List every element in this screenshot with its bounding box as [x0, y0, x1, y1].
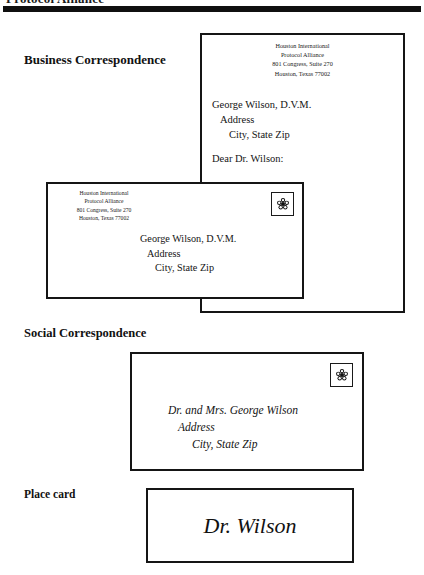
letter-address-line-1: George Wilson, D.V.M. [212, 97, 311, 112]
return-address-line-1: Houston International [52, 189, 156, 197]
envelope-address-line-3: City, State Zip [140, 261, 236, 276]
social-address-line-2: Address [168, 419, 298, 436]
envelope-address-line-1: George Wilson, D.V.M. [140, 232, 236, 247]
social-envelope: Dr. and Mrs. George Wilson Address City,… [130, 352, 364, 471]
flower-stamp-icon [330, 363, 353, 387]
letter-address-line-2: Address [212, 112, 311, 127]
business-envelope-delivery-address: George Wilson, D.V.M. Address City, Stat… [140, 232, 236, 276]
letterhead-line-4: Houston, Texas 77002 [202, 69, 403, 78]
return-address-line-3: 801 Congress, Suite 270 [52, 206, 156, 214]
letterhead-line-1: Houston International [202, 41, 403, 50]
envelope-address-line-2: Address [140, 247, 236, 262]
return-address-line-2: Protocol Alliance [52, 197, 156, 205]
flower-stamp-icon [271, 192, 294, 216]
return-address-line-4: Houston, Texas 77002 [52, 214, 156, 222]
business-envelope-return-address: Houston International Protocol Alliance … [52, 189, 156, 223]
social-address-line-3: City, State Zip [168, 436, 298, 453]
section-heading-place-card: Place card [24, 488, 75, 500]
social-address-line-1: Dr. and Mrs. George Wilson [168, 402, 298, 419]
letter-inside-address: George Wilson, D.V.M. Address City, Stat… [212, 97, 311, 142]
header-rule [3, 6, 421, 12]
letter-address-line-3: City, State Zip [212, 127, 311, 142]
social-envelope-delivery-address: Dr. and Mrs. George Wilson Address City,… [168, 402, 298, 453]
letterhead-block: Houston International Protocol Alliance … [202, 41, 403, 78]
business-envelope: Houston International Protocol Alliance … [46, 182, 304, 299]
letter-salutation: Dear Dr. Wilson: [212, 153, 283, 164]
section-heading-business-correspondence: Business Correspondence [24, 52, 166, 68]
letterhead-line-2: Protocol Alliance [202, 50, 403, 59]
place-card-name: Dr. Wilson [204, 513, 297, 539]
place-card: Dr. Wilson [146, 488, 354, 563]
letterhead-line-3: 801 Congress, Suite 270 [202, 59, 403, 68]
section-heading-social-correspondence: Social Correspondence [24, 326, 146, 341]
